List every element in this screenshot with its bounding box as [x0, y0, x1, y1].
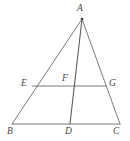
point-label-b: B: [7, 127, 13, 137]
point-label-g: G: [109, 79, 116, 89]
geometry-canvas: [0, 0, 130, 141]
point-label-e: E: [21, 79, 27, 89]
segment-ac: [82, 19, 120, 124]
point-label-f: F: [62, 74, 68, 84]
point-label-d: D: [65, 127, 72, 137]
point-label-a: A: [77, 4, 83, 14]
point-label-c: C: [113, 127, 119, 137]
vertex-marker-a: [81, 18, 84, 21]
geometry-figure: A B C D E F G: [0, 0, 130, 141]
